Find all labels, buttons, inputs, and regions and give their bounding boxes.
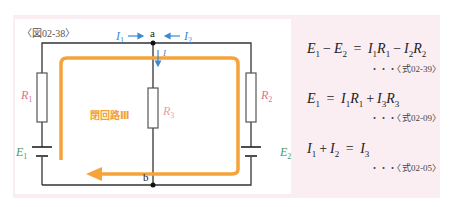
equation-1-ref: ・・・〈式02-39〉 bbox=[370, 62, 441, 75]
equation-1: E1−E2 = I1R1−I2R2 bbox=[307, 41, 426, 59]
equation-3: I1+I2 = I3 bbox=[307, 141, 369, 159]
equation-2: E1 = I1R1+I3R3 bbox=[307, 91, 399, 109]
resistor-r3 bbox=[148, 88, 158, 128]
node-b-dot bbox=[151, 183, 156, 188]
label-i2: I2 bbox=[184, 29, 192, 45]
resistor-r1 bbox=[37, 73, 47, 122]
node-a-label: a bbox=[150, 27, 155, 39]
label-i1: I1 bbox=[116, 29, 124, 45]
arrow-right-icon bbox=[138, 34, 143, 39]
loop-arrow-icon bbox=[86, 167, 102, 181]
node-b-label: b bbox=[143, 171, 149, 183]
label-i3: I bbox=[163, 48, 166, 58]
equation-2-ref: ・・・〈式02-09〉 bbox=[370, 111, 441, 124]
label-e2: E2 bbox=[280, 145, 291, 161]
equation-3-ref: ・・・〈式02-05〉 bbox=[370, 161, 441, 174]
node-a-dot bbox=[151, 41, 156, 46]
arrow-left-icon bbox=[165, 34, 170, 39]
label-r3: R3 bbox=[163, 104, 174, 120]
loop-label: 閉回路Ⅲ bbox=[90, 107, 129, 122]
label-e1: E1 bbox=[16, 145, 27, 161]
resistor-r2 bbox=[246, 73, 256, 122]
label-r1: R1 bbox=[21, 88, 32, 104]
label-r2: R2 bbox=[261, 88, 272, 104]
arrow-down-icon bbox=[156, 61, 161, 66]
